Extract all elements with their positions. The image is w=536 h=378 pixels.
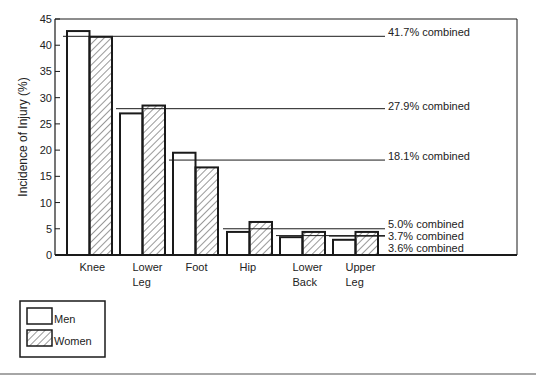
x-category-label: Lower <box>133 261 163 273</box>
legend-swatch-men <box>27 308 52 324</box>
bar-men-knee <box>67 31 90 255</box>
bar-men-hip <box>227 232 250 255</box>
legend-label-women: Women <box>54 335 92 347</box>
y-tick-label: 45 <box>40 13 52 25</box>
y-tick-label: 5 <box>46 223 52 235</box>
y-tick-label: 15 <box>40 170 52 182</box>
y-tick-label: 25 <box>40 118 52 130</box>
bar-women-knee <box>90 37 113 255</box>
x-category-label: Back <box>293 276 318 288</box>
y-axis: 051015202530354045 <box>40 13 60 261</box>
combined-label: 41.7% combined <box>388 26 470 38</box>
x-category-label: Leg <box>346 276 364 288</box>
bar-men-lower-leg <box>120 113 143 255</box>
y-tick-label: 10 <box>40 197 52 209</box>
bars <box>67 31 378 255</box>
x-category-label: Knee <box>80 261 106 273</box>
x-category-label: Leg <box>133 276 151 288</box>
bar-men-foot <box>173 153 196 255</box>
x-category-label: Lower <box>293 261 323 273</box>
x-axis-labels: KneeLowerLegFootHipLowerBackUpperLeg <box>80 261 376 288</box>
bar-men-lower-back <box>280 237 303 255</box>
combined-label: 18.1% combined <box>388 150 470 162</box>
bar-women-hip <box>250 222 273 255</box>
injury-bar-chart: 051015202530354045 Incidence of Injury (… <box>0 0 536 378</box>
y-tick-label: 0 <box>46 249 52 261</box>
combined-label: 3.7% combined <box>388 230 464 242</box>
y-tick-label: 30 <box>40 92 52 104</box>
combined-label: 3.6% combined <box>388 242 464 254</box>
legend-swatch-women <box>27 330 52 346</box>
bar-women-foot <box>196 167 219 255</box>
y-axis-label: Incidence of Injury (%) <box>16 77 30 196</box>
y-tick-label: 35 <box>40 65 52 77</box>
combined-label: 27.9% combined <box>388 100 470 112</box>
legend: MenWomen <box>20 301 105 357</box>
x-category-label: Upper <box>346 261 376 273</box>
bar-men-upper-leg <box>333 240 356 255</box>
combined-label: 5.0% combined <box>388 218 464 230</box>
legend-label-men: Men <box>54 313 75 325</box>
y-tick-label: 40 <box>40 39 52 51</box>
x-category-label: Hip <box>240 261 257 273</box>
y-tick-label: 20 <box>40 144 52 156</box>
x-category-label: Foot <box>186 261 208 273</box>
bar-women-lower-leg <box>143 106 166 255</box>
